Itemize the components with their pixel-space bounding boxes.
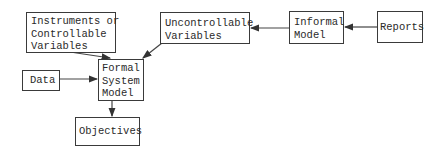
node-reports: Reports xyxy=(377,11,423,43)
node-uncontrollable: Uncontrollable Variables xyxy=(160,12,250,44)
node-instruments: Instruments or Controllable Variables xyxy=(26,12,116,53)
edge-uncontrollable-formal xyxy=(143,43,162,58)
node-informal: Informal Model xyxy=(289,11,344,44)
node-formal: Formal System Model xyxy=(98,59,144,101)
node-objectives: Objectives xyxy=(75,117,140,146)
node-data: Data xyxy=(22,70,60,91)
